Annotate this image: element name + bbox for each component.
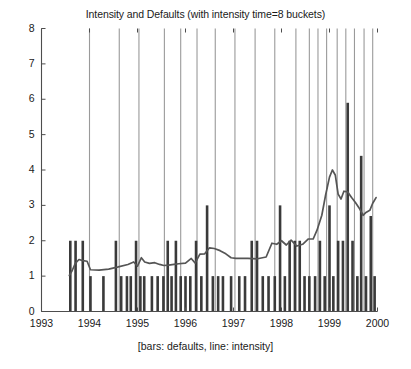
default-bar	[139, 276, 142, 311]
default-bar	[288, 241, 291, 312]
y-axis-tick-label: 1	[9, 269, 35, 281]
default-bar	[238, 276, 241, 311]
default-bar	[369, 216, 372, 312]
y-axis-tick-label: 2	[9, 234, 35, 246]
default-bar	[195, 241, 198, 312]
x-axis-tick-label: 1995	[116, 317, 160, 329]
default-bar	[365, 276, 368, 311]
default-bar	[89, 276, 92, 311]
default-bar	[206, 205, 209, 311]
default-bar	[337, 241, 340, 312]
default-bar	[102, 276, 105, 311]
default-bar	[261, 276, 264, 311]
default-bar	[250, 241, 253, 312]
default-bar	[328, 205, 331, 311]
default-bar	[323, 276, 326, 311]
default-bar	[284, 276, 287, 311]
default-bar	[162, 276, 165, 311]
default-bar	[267, 276, 270, 311]
default-bar	[126, 276, 129, 311]
default-bar	[151, 276, 154, 311]
y-axis-tick-label: 5	[9, 128, 35, 140]
default-bar	[115, 241, 118, 312]
x-axis-tick-label: 1996	[164, 317, 208, 329]
default-bar	[156, 276, 159, 311]
default-bar	[212, 276, 215, 311]
plot-area	[0, 0, 411, 369]
default-bar	[332, 276, 335, 311]
default-bar	[294, 241, 297, 312]
y-axis-tick-label: 3	[9, 198, 35, 210]
default-bar	[222, 276, 225, 311]
default-bar	[319, 241, 322, 312]
x-axis-tick-label: 2000	[356, 317, 400, 329]
default-bar	[81, 241, 84, 312]
default-bar	[308, 276, 311, 311]
default-bar	[273, 276, 276, 311]
default-bar	[279, 205, 282, 311]
default-bar	[298, 241, 301, 312]
default-bar	[256, 241, 259, 312]
defaults-bar-group	[69, 103, 376, 312]
default-bar	[346, 103, 349, 312]
y-axis-tick-label: 8	[9, 22, 35, 34]
chart-figure: Intensity and Defaults (with intensity t…	[0, 0, 411, 369]
default-bar	[179, 276, 182, 311]
default-bar	[373, 276, 376, 311]
chart-caption-legend: [bars: defaults, line: intensity]	[0, 340, 411, 352]
default-bar	[120, 276, 123, 311]
default-bar	[314, 276, 317, 311]
default-bar	[129, 276, 132, 311]
default-bar	[360, 156, 363, 312]
x-axis-tick-label: 1994	[68, 317, 112, 329]
default-bar	[342, 241, 345, 312]
default-bar	[189, 276, 192, 311]
default-bar	[135, 241, 138, 312]
default-bar	[200, 276, 203, 311]
x-axis-tick-label: 1998	[260, 317, 304, 329]
y-axis-tick-label: 4	[9, 163, 35, 175]
default-bar	[230, 276, 233, 311]
default-bar	[184, 276, 187, 311]
default-bar	[303, 276, 306, 311]
y-axis-tick-label: 6	[9, 92, 35, 104]
default-bar	[74, 241, 77, 312]
y-axis-tick-label: 0	[9, 305, 35, 317]
x-axis-tick-label: 1997	[212, 317, 256, 329]
default-bar	[244, 276, 247, 311]
x-axis-tick-label: 1999	[308, 317, 352, 329]
x-axis-tick-label: 1993	[20, 317, 64, 329]
default-bar	[166, 241, 169, 312]
default-bar	[217, 276, 220, 311]
default-bar	[351, 241, 354, 312]
default-bar	[170, 276, 173, 311]
default-bar	[175, 241, 178, 312]
default-bar	[356, 276, 359, 311]
default-bar	[143, 276, 146, 311]
y-axis-tick-label: 7	[9, 57, 35, 69]
